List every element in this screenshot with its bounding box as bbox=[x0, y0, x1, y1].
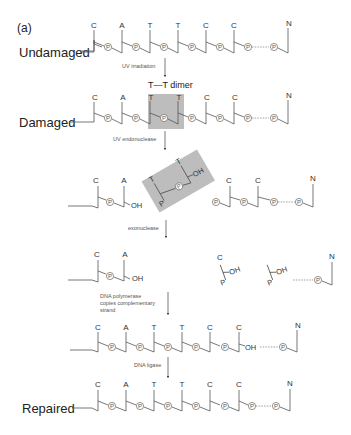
svg-text:P: P bbox=[166, 344, 170, 350]
svg-text:C: C bbox=[203, 21, 209, 30]
svg-text:T: T bbox=[152, 323, 157, 332]
panel-label: (a) bbox=[17, 21, 32, 35]
svg-text:N: N bbox=[287, 379, 293, 388]
svg-text:P: P bbox=[106, 115, 110, 121]
svg-text:P: P bbox=[134, 44, 138, 50]
svg-text:N: N bbox=[286, 91, 292, 100]
svg-text:P: P bbox=[194, 344, 198, 350]
svg-text:P: P bbox=[108, 199, 112, 205]
svg-text:C: C bbox=[94, 250, 100, 259]
excised-dimer-fragment: P OH P T T bbox=[140, 147, 215, 213]
svg-text:P: P bbox=[106, 44, 110, 50]
svg-text:A: A bbox=[121, 176, 127, 185]
svg-text:P: P bbox=[190, 115, 194, 121]
svg-text:P: P bbox=[108, 273, 112, 279]
svg-text:C: C bbox=[207, 380, 213, 389]
dimer-label: T—T dimer bbox=[148, 80, 193, 90]
svg-text:P: P bbox=[190, 44, 194, 50]
svg-text:P: P bbox=[223, 344, 227, 350]
bases: C A T T C C N bbox=[91, 19, 292, 30]
svg-text:P: P bbox=[162, 115, 166, 121]
svg-text:copies complementary: copies complementary bbox=[100, 300, 155, 306]
svg-text:T: T bbox=[176, 21, 181, 30]
svg-text:C: C bbox=[95, 323, 101, 332]
svg-text:T: T bbox=[148, 21, 153, 30]
phosphates: P P P P P P P bbox=[104, 43, 277, 50]
svg-text:P: P bbox=[316, 277, 320, 283]
svg-text:OH: OH bbox=[275, 265, 289, 277]
svg-text:C: C bbox=[207, 323, 213, 332]
svg-text:T: T bbox=[180, 380, 185, 389]
svg-text:C: C bbox=[226, 176, 232, 185]
svg-text:UV irradiation: UV irradiation bbox=[122, 63, 155, 69]
svg-text:OH: OH bbox=[228, 265, 242, 277]
undamaged-strand: Undamaged P P P P P P P C A T T bbox=[19, 19, 292, 60]
svg-text:P: P bbox=[223, 403, 227, 409]
svg-text:A: A bbox=[120, 93, 126, 102]
svg-text:N: N bbox=[329, 252, 335, 261]
svg-text:strand: strand bbox=[100, 307, 115, 313]
svg-text:A: A bbox=[123, 380, 129, 389]
svg-text:C: C bbox=[204, 93, 210, 102]
svg-text:C: C bbox=[255, 176, 261, 185]
svg-text:DNA ligase: DNA ligase bbox=[134, 362, 161, 368]
svg-text:P: P bbox=[134, 115, 138, 121]
step-exonuclease: exonuclease bbox=[128, 220, 166, 237]
phosphates: P P P P P P P bbox=[104, 114, 277, 121]
row-label-undamaged: Undamaged bbox=[19, 45, 90, 60]
step-uv-irradiation: UV irradiation bbox=[122, 58, 165, 76]
svg-text:P: P bbox=[194, 403, 198, 409]
damaged-strand: T—T dimer Damaged P P P P P P P C A T bbox=[19, 80, 292, 130]
exo-left-fragment: P OH C A bbox=[68, 250, 143, 283]
exo-free-nucleotides: OH P C OH P bbox=[215, 253, 291, 288]
svg-text:P: P bbox=[246, 44, 250, 50]
step-uv-endonuclease: UV endonuclease bbox=[113, 131, 165, 149]
svg-text:C: C bbox=[236, 380, 242, 389]
svg-text:DNA polymerase: DNA polymerase bbox=[100, 293, 141, 299]
svg-text:P: P bbox=[272, 199, 276, 205]
svg-text:T: T bbox=[152, 380, 157, 389]
svg-text:P: P bbox=[110, 344, 114, 350]
svg-text:C: C bbox=[92, 93, 98, 102]
svg-text:T: T bbox=[180, 323, 185, 332]
svg-text:C: C bbox=[93, 176, 99, 185]
svg-text:exonuclease: exonuclease bbox=[128, 225, 159, 231]
exo-right-fragment: P N bbox=[293, 252, 335, 285]
svg-text:C: C bbox=[95, 380, 101, 389]
polymerase-strand: P P P P P OH P C A T T C C N bbox=[70, 321, 301, 352]
row-label-repaired: Repaired bbox=[22, 401, 75, 416]
svg-text:P: P bbox=[242, 199, 246, 205]
svg-text:C: C bbox=[232, 93, 238, 102]
incised-left-fragment: P OH C A bbox=[68, 176, 142, 210]
svg-text:C: C bbox=[91, 21, 97, 30]
svg-text:A: A bbox=[119, 21, 125, 30]
incised-right-fragment: P P P P C C N bbox=[212, 174, 316, 207]
svg-text:P: P bbox=[272, 44, 276, 50]
svg-text:P: P bbox=[110, 403, 114, 409]
svg-text:C: C bbox=[217, 253, 223, 262]
step-dna-ligase: DNA ligase bbox=[134, 357, 168, 377]
svg-text:A: A bbox=[123, 323, 129, 332]
svg-text:OH: OH bbox=[245, 343, 256, 352]
svg-text:P: P bbox=[166, 403, 170, 409]
svg-text:P: P bbox=[214, 199, 218, 205]
row-label-damaged: Damaged bbox=[19, 115, 75, 130]
svg-text:C: C bbox=[231, 21, 237, 30]
svg-text:T: T bbox=[177, 93, 182, 102]
repaired-strand: Repaired P P P P P P P C A T T C C N bbox=[22, 379, 293, 416]
bases: C A T T C C N bbox=[92, 91, 292, 102]
svg-text:P: P bbox=[138, 344, 142, 350]
svg-text:UV endonuclease: UV endonuclease bbox=[113, 136, 156, 142]
svg-text:P: P bbox=[250, 403, 254, 409]
svg-text:P: P bbox=[274, 403, 278, 409]
svg-text:N: N bbox=[310, 174, 316, 183]
svg-text:P: P bbox=[281, 344, 285, 350]
svg-text:P: P bbox=[138, 403, 142, 409]
svg-text:C: C bbox=[236, 323, 242, 332]
svg-text:P: P bbox=[218, 44, 222, 50]
svg-text:P: P bbox=[246, 115, 250, 121]
svg-text:A: A bbox=[122, 250, 128, 259]
dna-excision-repair-diagram: (a) Undamaged P P P P P P P C A bbox=[0, 0, 351, 435]
svg-text:P: P bbox=[272, 115, 276, 121]
svg-text:P: P bbox=[297, 199, 301, 205]
